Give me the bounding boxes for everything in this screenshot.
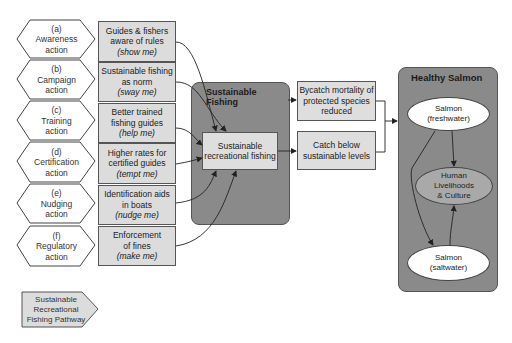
outcome-text: Sustainable fishing [101,66,172,77]
panel-title: Sustainable Fishing [206,87,289,107]
outcome-tag: (make me) [117,251,158,262]
action-suffix: action [45,126,68,137]
outcome-tag: (show me) [117,47,157,58]
action-suffix: action [45,45,68,56]
action-certification: (d) Certification action [20,143,93,182]
action-letter: (d) [51,147,61,158]
outcome-tag: (tempt me) [116,169,157,180]
outcome-text: Guides & fishers [106,26,168,37]
outcome-help-me: Better trained fishing guides (help me) [98,103,176,143]
action-name: Campaign [37,75,76,86]
node-text: Human [441,171,467,181]
box-text: recreational fishing [204,151,275,162]
box-text: Sustainable [218,141,262,152]
salmon-freshwater-node: Salmon (freshwater) [407,97,490,131]
bycatch-result-box: Bycatch mortality of protected species r… [297,81,376,121]
action-awareness: (a) Awareness action [20,21,93,58]
action-letter: (b) [51,64,61,75]
box-text: Bycatch mortality of [299,85,373,96]
arrow-to-salmon [376,101,397,152]
box-text: reduced [321,106,352,117]
outcome-tag: (sway me) [117,87,156,98]
action-suffix: action [45,168,68,179]
box-text: protected species [303,96,370,107]
box-text: Catch below [313,140,360,151]
action-training: (c) Training action [20,102,93,140]
outcome-text: fishing guides [111,118,163,129]
outcome-show-me: Guides & fishers aware of rules (show me… [98,21,176,62]
legend-text: Sustainable [35,295,77,305]
action-suffix: action [45,85,68,96]
outcome-text: aware of rules [110,36,163,47]
outcome-text: certified guides [108,158,165,169]
node-text: Salmon [435,253,462,263]
action-regulatory: (f) Regulatory action [20,227,93,266]
catch-result-box: Catch below sustainable levels [297,131,376,170]
action-letter: (c) [52,105,62,116]
outcome-tag: (nudge me) [115,210,158,221]
outcome-tag: (help me) [119,128,155,139]
node-text: & Culture [437,191,470,201]
legend-text: Fishing Pathway [27,315,86,325]
node-text: (freshwater) [427,114,470,124]
outcome-text: Better trained [111,107,162,118]
action-name: Awareness [36,34,78,45]
outcome-text: of fines [123,241,150,252]
outcome-nudge-me: Identification aids in boats (nudge me) [98,185,176,225]
action-name: Regulatory [36,241,77,252]
action-name: Training [41,116,71,127]
panel-title: Healthy Salmon [411,72,482,83]
action-name: Nudging [41,199,73,210]
node-text: Livelihoods [434,181,474,191]
salmon-saltwater-node: Salmon (saltwater) [407,245,490,281]
box-text: sustainable levels [303,151,370,162]
outcome-make-me: Enforcement of fines (make me) [98,226,176,266]
legend-pathway: Sustainable Recreational Fishing Pathway [22,293,90,327]
outcome-tempt-me: Higher rates for certified guides (tempt… [98,143,176,184]
action-suffix: action [45,252,68,263]
action-letter: (f) [52,231,60,242]
node-text: Salmon [435,104,462,114]
action-nudging: (e) Nudging action [20,185,93,223]
action-campaign: (b) Campaign action [20,61,93,99]
outcome-text: Enforcement [113,230,161,241]
node-text: (saltwater) [430,263,467,273]
action-letter: (a) [51,24,61,35]
legend-text: Recreational [34,305,79,315]
outcome-text: Identification aids [104,189,170,200]
sustainable-recreational-fishing-box: Sustainable recreational fishing [202,132,278,170]
action-letter: (e) [51,188,61,199]
outcome-sway-me: Sustainable fishing as norm (sway me) [98,62,176,102]
action-name: Certification [34,157,79,168]
outcome-text: as norm [122,77,153,88]
outcome-text: Higher rates for [108,148,167,159]
livelihoods-culture-node: Human Livelihoods & Culture [415,167,493,205]
action-suffix: action [45,209,68,220]
outcome-text: in boats [122,200,152,211]
